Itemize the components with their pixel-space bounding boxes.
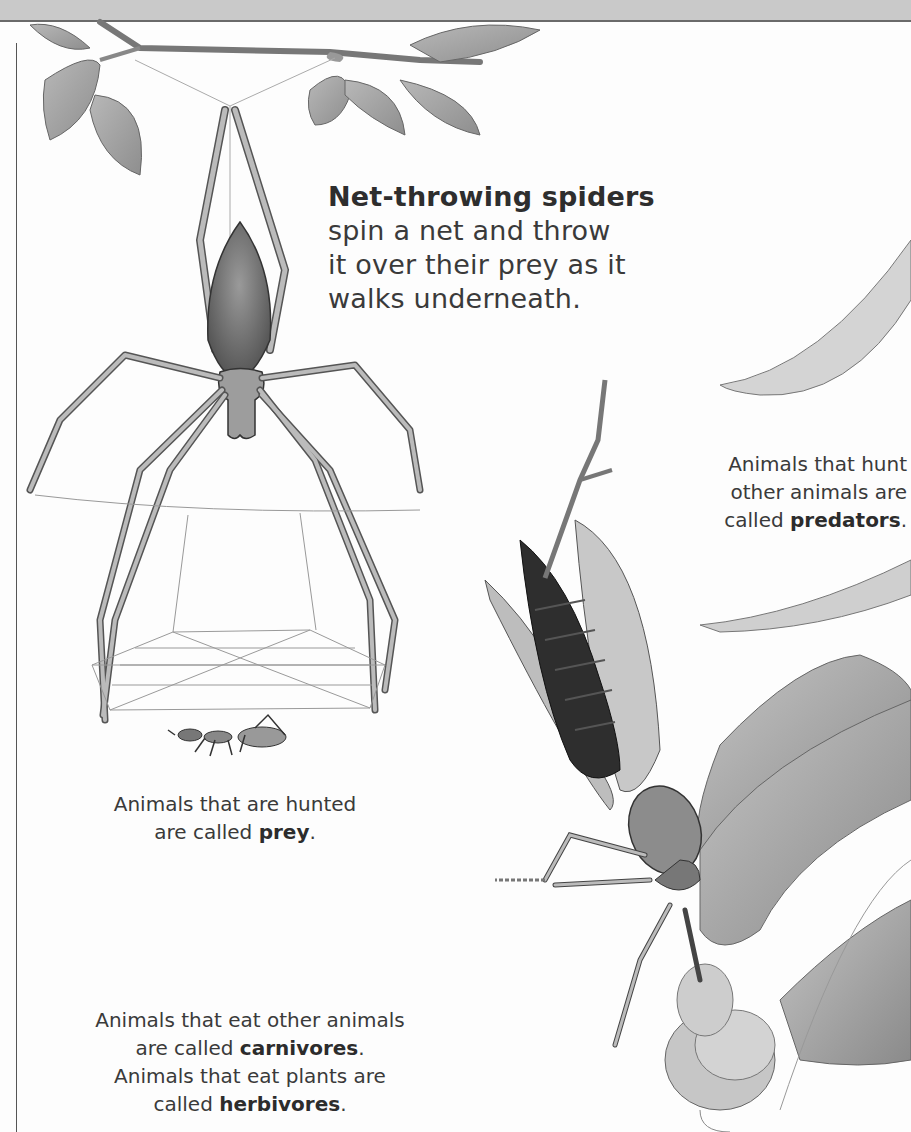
net-icon xyxy=(35,495,420,710)
caption-punct: . xyxy=(358,1036,364,1060)
predators-caption: Animals that hunt other animals are call… xyxy=(632,450,907,534)
caption-line: it over their prey as it xyxy=(328,248,728,282)
caption-punct: . xyxy=(340,1092,346,1116)
caption-line: Animals that hunt xyxy=(632,450,907,478)
branch-icon xyxy=(30,22,540,175)
caption-line: are called carnivores. xyxy=(40,1034,460,1062)
caption-heading: Net-throwing spiders xyxy=(328,180,728,214)
caption-text: are called xyxy=(135,1036,239,1060)
caption-punct: . xyxy=(901,508,907,532)
ant-icon xyxy=(168,715,286,756)
carnivores-herbivores-caption: Animals that eat other animals are calle… xyxy=(40,1006,460,1118)
caption-line: Animals that eat plants are xyxy=(40,1062,460,1090)
caption-line: are called prey. xyxy=(50,818,420,846)
illustration-layer xyxy=(0,0,911,1132)
term-predators: predators xyxy=(790,508,901,532)
caption-text: called xyxy=(724,508,790,532)
term-carnivores: carnivores xyxy=(240,1036,358,1060)
caption-line: spin a net and throw xyxy=(328,214,728,248)
caption-line: called herbivores. xyxy=(40,1090,460,1118)
mantis-icon xyxy=(665,240,911,1132)
caption-line: other animals are xyxy=(632,478,907,506)
caption-text: are called xyxy=(154,820,258,844)
term-prey: prey xyxy=(259,820,310,844)
term-herbivores: herbivores xyxy=(219,1092,340,1116)
caption-line: called predators. xyxy=(632,506,907,534)
caption-text: called xyxy=(153,1092,219,1116)
caption-line: Animals that eat other animals xyxy=(40,1006,460,1034)
caption-line: walks underneath. xyxy=(328,282,728,316)
caption-line: Animals that are hunted xyxy=(50,790,420,818)
prey-caption: Animals that are hunted are called prey. xyxy=(50,790,420,846)
net-throwing-spiders-caption: Net-throwing spiders spin a net and thro… xyxy=(328,180,728,316)
caption-punct: . xyxy=(309,820,315,844)
